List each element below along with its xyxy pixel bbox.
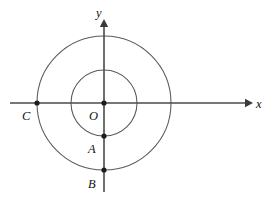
point-marker-origin (101, 100, 106, 105)
point-marker-b (101, 167, 106, 172)
y-axis-label: y (94, 6, 102, 20)
point-label-a: A (87, 142, 96, 156)
x-axis-arrowhead (245, 99, 253, 107)
point-label-origin: O (89, 109, 98, 123)
point-marker-a (101, 133, 106, 138)
diagram-canvas: x y O C A B (0, 0, 272, 197)
point-marker-c (34, 100, 39, 105)
y-axis-arrowhead (100, 19, 108, 27)
point-label-c: C (22, 109, 31, 123)
geometry-diagram: x y O C A B (0, 0, 272, 197)
x-axis-label: x (255, 97, 262, 111)
point-label-b: B (88, 177, 96, 191)
